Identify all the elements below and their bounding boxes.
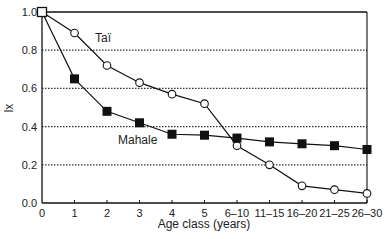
data-point-square	[103, 107, 112, 116]
data-point-circle	[331, 186, 339, 194]
data-point-circle	[71, 29, 79, 37]
x-axis-title: Age class (years)	[158, 217, 251, 231]
data-point-circle	[363, 190, 371, 198]
survivorship-chart: 0.00.20.40.60.81.0 0123456–1011–1516–202…	[0, 0, 387, 239]
y-axis-ticks: 0.00.20.40.60.81.0	[22, 6, 37, 209]
y-tick-label: 0.0	[22, 197, 37, 209]
data-point-circle	[103, 62, 111, 70]
data-series	[38, 8, 372, 198]
data-point-square	[298, 139, 307, 148]
data-point-circle	[233, 142, 241, 150]
series-label-tai: Taï	[95, 31, 112, 45]
series-line	[42, 12, 367, 150]
data-point-square	[265, 137, 274, 146]
series-label-mahale: Mahale	[118, 133, 158, 147]
data-point-square	[200, 131, 209, 140]
y-tick-label: 0.8	[22, 44, 37, 56]
data-point-circle	[136, 79, 144, 87]
x-tick-label: 11–15	[255, 207, 285, 219]
y-axis-title: lx	[2, 104, 16, 113]
data-point-circle	[298, 182, 306, 190]
data-point-circle	[168, 90, 176, 98]
x-tick-label: 16–20	[287, 207, 318, 219]
data-point-circle	[201, 100, 209, 108]
data-point-square	[135, 118, 144, 127]
x-tick-label: 2	[104, 207, 110, 219]
x-tick-label: 3	[136, 207, 142, 219]
data-point-square	[363, 145, 372, 154]
data-point-square	[168, 130, 177, 139]
y-tick-label: 0.4	[22, 121, 37, 133]
data-point-square	[70, 74, 79, 83]
x-tick-label: 26–30	[352, 207, 383, 219]
x-tick-label: 0	[39, 207, 45, 219]
y-tick-label: 0.2	[22, 159, 37, 171]
x-tick-label: 1	[71, 207, 77, 219]
y-tick-label: 0.6	[22, 82, 37, 94]
data-point-square	[330, 141, 339, 150]
data-point-square	[233, 134, 242, 143]
series-mahale	[42, 12, 367, 150]
data-point-circle	[266, 161, 274, 169]
x-tick-label: 21–25	[319, 207, 350, 219]
y-tick-label: 1.0	[22, 6, 37, 18]
data-point-origin-square	[38, 8, 47, 17]
